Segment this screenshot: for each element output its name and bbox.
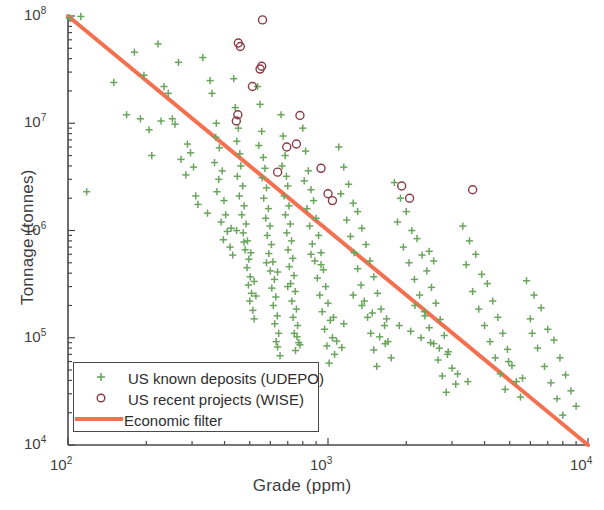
y-tick-label: 107 [24, 112, 46, 130]
legend-entry: Economic filter [74, 410, 222, 431]
y-tick-label: 105 [24, 327, 46, 345]
y-tick-label: 104 [24, 434, 46, 452]
legend-line-icon [74, 411, 124, 431]
wise-project-markers [232, 16, 476, 205]
legend-entry: US recent projects (WISE) [74, 389, 304, 410]
x-axis-label: Grade (ppm) [0, 476, 604, 496]
legend-entry: US known deposits (UDEPO) [74, 368, 324, 389]
x-tick-label: 103 [310, 455, 332, 473]
legend-cross-icon [74, 369, 128, 389]
y-tick-label: 108 [24, 5, 46, 23]
x-tick-label: 104 [570, 455, 592, 473]
legend-label: US recent projects (WISE) [128, 391, 304, 408]
chart-legend: US known deposits (UDEPO)US recent proje… [73, 362, 319, 432]
x-tick-label: 102 [50, 455, 72, 473]
plot-canvas [0, 0, 604, 510]
udepo-deposit-markers [66, 13, 580, 419]
scatter-chart-figure: Grade (ppm) Tonnage (tonnes) 102103104 1… [0, 0, 604, 510]
y-tick-label: 106 [24, 220, 46, 238]
legend-circle-icon [74, 390, 128, 410]
legend-label: US known deposits (UDEPO) [128, 370, 324, 387]
legend-label: Economic filter [124, 412, 222, 429]
